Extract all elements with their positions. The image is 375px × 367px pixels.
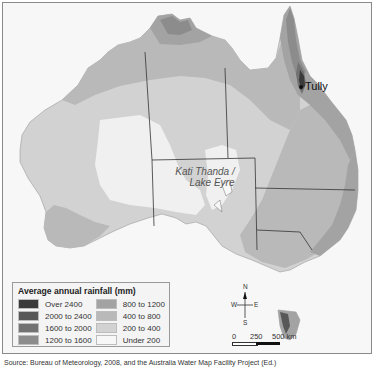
swatch xyxy=(96,299,117,309)
legend-item: 800 to 1200 xyxy=(96,299,165,309)
legend-item: 1200 to 1600 xyxy=(18,335,92,345)
legend-title: Average annual rainfall (mm) xyxy=(18,286,164,296)
swatch xyxy=(96,311,117,321)
legend-item: 400 to 800 xyxy=(96,311,165,321)
swatch xyxy=(18,323,39,333)
legend-item: Over 2400 xyxy=(18,299,92,309)
scale-bar: 0 250 500 km xyxy=(232,332,342,350)
legend-item: 1600 to 2000 xyxy=(18,323,92,333)
legend-item: 200 to 400 xyxy=(96,323,165,333)
compass-rose: N W E S xyxy=(232,286,258,326)
legend-item: 2000 to 2400 xyxy=(18,311,92,321)
lake-eyre-label: Kati Thanda / Lake Eyre xyxy=(160,166,250,188)
tully-marker xyxy=(299,85,303,89)
legend-item: Under 200 xyxy=(96,335,165,345)
swatch xyxy=(96,323,117,333)
swatch xyxy=(96,335,117,345)
swatch xyxy=(18,299,39,309)
tully-label: Tully xyxy=(305,80,328,92)
swatch xyxy=(18,311,39,321)
legend: Average annual rainfall (mm) Over 2400 8… xyxy=(12,282,170,347)
source-note: Source: Bureau of Meteorology, 2008, and… xyxy=(4,359,276,366)
swatch xyxy=(18,335,39,345)
